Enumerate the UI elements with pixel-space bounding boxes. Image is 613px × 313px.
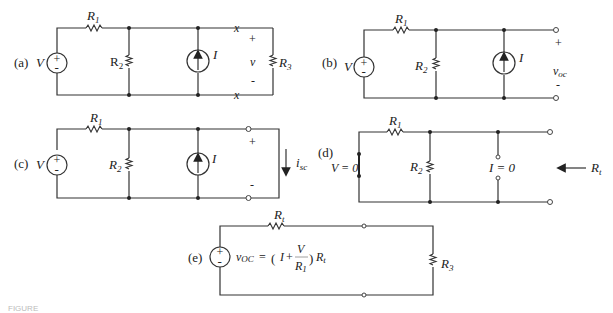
open-circuit-i0-bottom	[496, 176, 500, 180]
label-v: V	[36, 157, 46, 172]
circuit-panel-b: + - (b) V R1 R2 I + voc -	[322, 11, 567, 101]
terminal-top	[362, 224, 366, 228]
label-r1: R1	[388, 113, 401, 130]
formula-paren-open: (	[271, 251, 275, 266]
terminal-bottom	[246, 196, 251, 201]
open-circuit-i0-top	[496, 155, 500, 159]
circuit-panel-d: (d) V = 0 R1 R2 I = 0 Rt	[318, 113, 602, 205]
resistor-r3	[270, 55, 276, 66]
source-minus-sign: -	[55, 162, 59, 177]
minus-sign: -	[251, 74, 255, 88]
label-v: V	[344, 59, 354, 74]
label-r2: R2	[110, 54, 123, 71]
formula-rt: Rt	[315, 250, 326, 265]
label-isc: isc	[296, 155, 307, 172]
terminal-top	[554, 28, 559, 33]
source-minus-sign: -	[55, 60, 59, 75]
resistor-r1	[86, 25, 102, 31]
formula-numerator: V	[297, 242, 306, 256]
formula-plus: +	[286, 250, 293, 264]
label-v-zero: V = 0	[331, 161, 358, 175]
resistor-r2	[433, 58, 439, 69]
circuit-panel-e: + - (e) Rt vOC = ( I + V R1 ) Rt R3	[188, 207, 454, 297]
source-minus-sign: -	[362, 64, 366, 79]
label-i: I	[518, 50, 524, 65]
terminal-top	[548, 130, 553, 135]
formula-voc: vOC	[236, 250, 255, 264]
plus-sign: +	[555, 36, 562, 50]
figure-caption: FIGURE	[8, 304, 38, 313]
circuit-panel-a: + - x x (a) V R1 R2 I + v - R3	[14, 8, 292, 102]
formula-equals: =	[259, 250, 266, 264]
terminal-bottom	[554, 96, 559, 101]
label-i: I	[212, 47, 218, 62]
resistor-r2	[427, 161, 433, 172]
label-voc: voc	[553, 64, 567, 79]
formula-denominator: R1	[294, 259, 307, 274]
panel-label-d: (d)	[318, 145, 333, 160]
label-r2: R2	[409, 159, 423, 176]
cut-mark-bottom: x	[233, 88, 240, 102]
plus-sign: +	[249, 135, 256, 149]
label-r1: R1	[394, 11, 407, 28]
label-r3: R3	[440, 256, 454, 273]
label-r1: R1	[86, 8, 99, 25]
terminal-top	[246, 127, 251, 132]
label-v: V	[36, 55, 46, 70]
panel-label-c: (c)	[14, 156, 28, 171]
terminal-bottom	[548, 200, 553, 205]
label-r3: R3	[278, 55, 292, 72]
panel-label-e: (e)	[188, 250, 202, 265]
minus-sign: -	[250, 178, 254, 192]
label-rt: Rt	[273, 207, 285, 224]
resistor-r3	[430, 254, 436, 265]
cut-mark-top: x	[233, 21, 240, 35]
resistor-r2	[126, 55, 132, 66]
plus-sign: +	[249, 32, 256, 46]
voc-formula: vOC = ( I + V R1 ) Rt	[236, 242, 326, 274]
formula-i: I	[279, 250, 285, 264]
resistor-r2	[126, 158, 132, 169]
label-i-zero: I = 0	[488, 160, 516, 175]
minus-sign: -	[556, 78, 560, 92]
panel-label-b: (b)	[322, 55, 337, 70]
circuit-panel-c: + - (c) V R1 R2 I + - isc	[14, 110, 307, 201]
label-voltage-v: v	[250, 55, 256, 69]
terminal-bottom	[362, 293, 366, 297]
panel-label-a: (a)	[14, 55, 28, 70]
label-r1: R1	[89, 110, 102, 127]
source-minus-sign: -	[218, 254, 222, 269]
label-r2: R2	[108, 157, 122, 174]
label-i: I	[211, 151, 217, 166]
label-r2: R2	[414, 58, 428, 75]
label-rt: Rt	[590, 160, 602, 177]
formula-paren-close: )	[309, 251, 313, 266]
